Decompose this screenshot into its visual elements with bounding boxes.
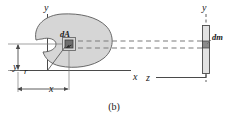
left-y-axis-label: y <box>44 3 48 13</box>
figure-container: y x dA r y x y z dm (b) <box>0 0 228 121</box>
mass-element-label: dm <box>212 33 223 42</box>
right-y-axis-label: y <box>202 3 206 13</box>
mass-strip-bar <box>203 26 210 74</box>
area-element-label: dA <box>60 30 70 39</box>
mass-element-dm <box>203 40 212 48</box>
figure-caption: (b) <box>0 101 228 112</box>
right-z-axis <box>156 74 206 79</box>
y-distance-label: y <box>13 62 17 72</box>
x-distance-label: x <box>49 84 53 94</box>
radius-label: r <box>24 67 28 76</box>
right-z-axis-label: z <box>146 73 150 83</box>
left-x-axis-label: x <box>133 72 137 82</box>
